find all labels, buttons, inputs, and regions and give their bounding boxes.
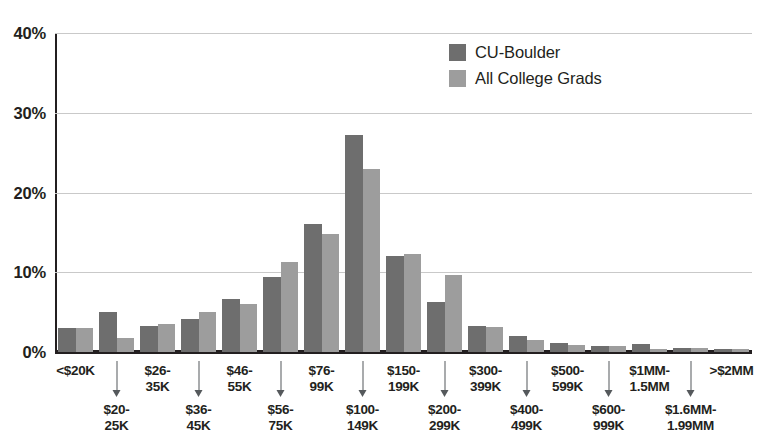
legend-item-all-college-grads: All College Grads bbox=[449, 69, 602, 88]
bar bbox=[199, 312, 216, 352]
x-axis-tick-label: <$20K bbox=[56, 363, 95, 379]
down-arrow-icon bbox=[112, 361, 121, 399]
x-axis-labels: <$20K$20-25K$26-35K$36-45K$46-55K$56-75K… bbox=[55, 357, 752, 444]
bar-group bbox=[342, 33, 383, 352]
bar bbox=[427, 302, 444, 352]
bar bbox=[58, 328, 75, 352]
bar-chart: 40%30%20%10%0% CU-Boulder All College Gr… bbox=[0, 0, 760, 444]
bar bbox=[222, 299, 239, 352]
x-axis-label-cell: $1.6MM-1.99MM bbox=[670, 357, 711, 444]
legend-label-all-college-grads: All College Grads bbox=[475, 69, 602, 88]
bar bbox=[304, 224, 321, 352]
bar bbox=[181, 319, 198, 352]
bar bbox=[568, 345, 585, 352]
bar bbox=[140, 326, 157, 352]
bar bbox=[673, 348, 690, 352]
bar-group bbox=[670, 33, 711, 352]
x-axis-tick-label: $46-55K bbox=[227, 363, 253, 395]
bar-group bbox=[219, 33, 260, 352]
bar-group bbox=[137, 33, 178, 352]
x-axis-tick-label: $200-299K bbox=[428, 402, 461, 434]
x-axis-label-cell: >$2MM bbox=[711, 357, 752, 444]
bar-group bbox=[383, 33, 424, 352]
x-axis-label-cell: $400-499K bbox=[506, 357, 547, 444]
bar bbox=[550, 343, 567, 352]
bar bbox=[691, 348, 708, 352]
bar bbox=[632, 344, 649, 352]
x-axis-label-cell: $100-149K bbox=[342, 357, 383, 444]
legend-label-cu-boulder: CU-Boulder bbox=[475, 43, 560, 62]
bar-group bbox=[711, 33, 752, 352]
bar bbox=[486, 327, 503, 352]
x-axis-label-cell: $1MM-1.5MM bbox=[629, 357, 670, 444]
x-axis-tick-label: >$2MM bbox=[710, 363, 754, 379]
legend-item-cu-boulder: CU-Boulder bbox=[449, 43, 602, 62]
x-axis-label-cell: <$20K bbox=[55, 357, 96, 444]
bar bbox=[263, 277, 280, 352]
x-axis-tick-label: $100-149K bbox=[346, 402, 379, 434]
bar-group bbox=[96, 33, 137, 352]
bar bbox=[386, 256, 403, 352]
x-axis-tick-label: $1.6MM-1.99MM bbox=[665, 402, 716, 434]
bar bbox=[117, 338, 134, 352]
x-axis-tick-label: $20-25K bbox=[104, 402, 130, 434]
x-axis-tick-label: $600-999K bbox=[592, 402, 625, 434]
x-axis-label-cell: $26-35K bbox=[137, 357, 178, 444]
bar bbox=[609, 346, 626, 352]
legend-swatch-icon-all-college-grads bbox=[449, 70, 466, 87]
down-arrow-icon bbox=[194, 361, 203, 399]
bar bbox=[158, 324, 175, 352]
x-axis-tick-label: $150-199K bbox=[387, 363, 420, 395]
chart-legend: CU-Boulder All College Grads bbox=[449, 43, 602, 88]
down-arrow-icon bbox=[276, 361, 285, 399]
x-axis-label-cell: $76-99K bbox=[301, 357, 342, 444]
x-axis-label-cell: $150-199K bbox=[383, 357, 424, 444]
y-axis-tick-label: 30% bbox=[0, 103, 46, 122]
y-axis-tick-label: 10% bbox=[0, 263, 46, 282]
x-axis-tick-label: $500-599K bbox=[551, 363, 584, 395]
bars-layer bbox=[55, 33, 752, 352]
bar bbox=[527, 340, 544, 352]
plot-area bbox=[55, 33, 752, 352]
y-axis-tick-label: 20% bbox=[0, 183, 46, 202]
x-axis-label-cell: $200-299K bbox=[424, 357, 465, 444]
bar-group bbox=[260, 33, 301, 352]
down-arrow-icon bbox=[604, 361, 613, 399]
x-axis-tick-label: $26-35K bbox=[145, 363, 171, 395]
bar bbox=[99, 312, 116, 352]
down-arrow-icon bbox=[686, 361, 695, 399]
bar bbox=[76, 328, 93, 352]
bar bbox=[363, 169, 380, 352]
down-arrow-icon bbox=[358, 361, 367, 399]
down-arrow-icon bbox=[440, 361, 449, 399]
bar bbox=[591, 346, 608, 352]
x-axis-tick-label: $1MM-1.5MM bbox=[629, 363, 670, 395]
x-axis-tick-label: $76-99K bbox=[309, 363, 335, 395]
x-axis-tick-label: $56-75K bbox=[268, 402, 294, 434]
bar-group bbox=[178, 33, 219, 352]
x-axis-label-cell: $46-55K bbox=[219, 357, 260, 444]
x-axis-tick-label: $300-399K bbox=[469, 363, 502, 395]
bar bbox=[281, 262, 298, 352]
x-axis-label-cell: $56-75K bbox=[260, 357, 301, 444]
bar bbox=[322, 234, 339, 352]
down-arrow-icon bbox=[522, 361, 531, 399]
bar bbox=[714, 349, 731, 352]
x-axis-tick-label: $400-499K bbox=[510, 402, 543, 434]
x-axis-tick-label: $36-45K bbox=[186, 402, 212, 434]
bar bbox=[345, 135, 362, 352]
y-axis-tick-label: 0% bbox=[0, 343, 46, 362]
bar bbox=[468, 326, 485, 352]
bar bbox=[509, 336, 526, 352]
y-axis-tick-label: 40% bbox=[0, 24, 46, 43]
bar bbox=[732, 349, 749, 352]
bar bbox=[404, 254, 421, 352]
x-axis-label-cell: $500-599K bbox=[547, 357, 588, 444]
bar bbox=[650, 349, 667, 352]
bar bbox=[445, 275, 462, 352]
bar bbox=[240, 304, 257, 352]
x-axis-label-cell: $36-45K bbox=[178, 357, 219, 444]
x-axis-label-cell: $300-399K bbox=[465, 357, 506, 444]
bar-group bbox=[629, 33, 670, 352]
bar-group bbox=[301, 33, 342, 352]
